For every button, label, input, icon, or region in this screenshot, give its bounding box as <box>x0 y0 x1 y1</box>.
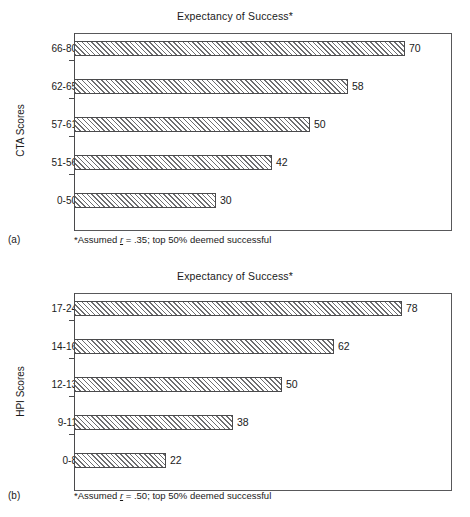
bar-value-label: 42 <box>276 156 288 168</box>
footnote-suffix: = .50; top 50% deemed successful <box>123 490 271 501</box>
bar <box>74 415 233 430</box>
bar-value-label: 30 <box>220 194 232 206</box>
panel-letter-a: (a) <box>8 234 20 245</box>
bar <box>74 453 166 468</box>
bar <box>74 301 402 316</box>
bar <box>74 41 405 56</box>
footnote-prefix: *Assumed <box>74 234 120 245</box>
footnote-a: *Assumed r = .35; top 50% deemed success… <box>74 234 271 245</box>
bar <box>74 339 334 354</box>
y-axis-tick <box>69 320 74 321</box>
bar-value-label: 58 <box>352 80 364 92</box>
chart-panel-a: Expectancy of Success* CTA Scores 66-80 … <box>0 0 470 258</box>
bar-value-label: 50 <box>314 118 326 130</box>
chart-panel-b: Expectancy of Success* HPI Scores 17-24 … <box>0 258 470 517</box>
y-axis-title-a: CTA Scores <box>15 89 26 173</box>
bar <box>74 155 272 170</box>
footnote-prefix: *Assumed <box>74 490 120 501</box>
bar <box>74 193 216 208</box>
bar <box>74 377 282 392</box>
bar-value-label: 22 <box>170 454 182 466</box>
bar-value-label: 78 <box>406 302 418 314</box>
bar <box>74 79 348 94</box>
y-axis-tick <box>69 358 74 359</box>
footnote-suffix: = .35; top 50% deemed successful <box>123 234 271 245</box>
y-axis-tick <box>69 396 74 397</box>
panel-letter-b: (b) <box>8 490 20 501</box>
bar-value-label: 70 <box>409 42 421 54</box>
bar <box>74 117 310 132</box>
footnote-b: *Assumed r = .50; top 50% deemed success… <box>74 490 271 501</box>
bar-value-label: 38 <box>237 416 249 428</box>
bar-value-label: 62 <box>338 340 350 352</box>
chart-title-b: Expectancy of Success* <box>0 270 470 282</box>
chart-title-a: Expectancy of Success* <box>0 10 470 22</box>
y-axis-title-b: HPI Scores <box>15 350 26 434</box>
y-axis-tick <box>69 136 74 137</box>
bar-value-label: 50 <box>286 378 298 390</box>
y-axis-tick <box>69 434 74 435</box>
y-axis-tick <box>69 98 74 99</box>
y-axis-tick <box>69 60 74 61</box>
y-axis-tick <box>69 174 74 175</box>
